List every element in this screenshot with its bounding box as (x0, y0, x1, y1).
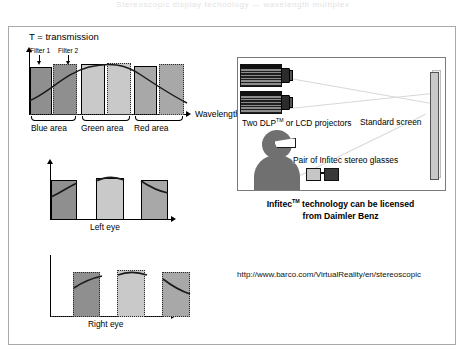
right-eye-chart: Right eye (17, 255, 207, 335)
left-eye-caption: Left eye (90, 222, 120, 232)
panel-caption: InfitecTM technology can be licensed fro… (237, 195, 444, 222)
chart-baseline (30, 114, 184, 115)
area-label-blue: Blue area (31, 123, 67, 133)
area-label-red: Red area (134, 123, 168, 133)
source-url[interactable]: http://www.barco.com/VirtualReality/en/s… (237, 270, 462, 279)
transmission-title: T = transmission (29, 31, 99, 42)
right-eye-caption: Right eye (88, 319, 123, 329)
projector-bottom (240, 91, 294, 115)
transmission-chart: T = transmission Wavelength Filter 1 Fil… (17, 31, 217, 139)
right-eye-curve (50, 255, 200, 317)
screen-label: Standard screen (360, 117, 421, 127)
stereo-glasses-icon (306, 168, 340, 181)
projector-top (240, 64, 294, 88)
glasses-label: Pair of Infitec stereo glasses (293, 155, 398, 165)
illustration-panel: Two DLPTM or LCD projectors Standard scr… (237, 57, 446, 191)
brace-red (135, 116, 183, 121)
left-eye-chart: Left eye (17, 157, 207, 237)
slide-frame: T = transmission Wavelength Filter 1 Fil… (8, 26, 456, 345)
projectors-label: Two DLPTM or LCD projectors (242, 117, 351, 128)
standard-screen (430, 72, 439, 180)
left-eye-curve (50, 163, 172, 220)
brace-blue (31, 116, 76, 121)
area-label-green: Green area (81, 123, 123, 133)
brace-green (82, 116, 130, 121)
x-axis-label: Wavelength (195, 109, 240, 119)
top-cutoff-text: Stereoscopic display technology — wavele… (0, 0, 466, 12)
envelope-curve (29, 51, 187, 115)
